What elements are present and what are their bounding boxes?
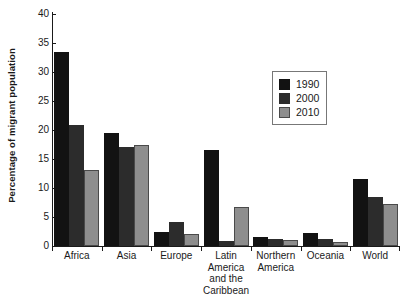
x-axis-label: NorthernAmerica xyxy=(251,250,301,296)
x-axis-label: Africa xyxy=(52,250,102,296)
bar[interactable] xyxy=(268,239,283,246)
y-axis-tick-label: 35 xyxy=(38,38,52,48)
bar-group xyxy=(251,14,301,246)
y-axis-tick-label: 0 xyxy=(43,241,52,251)
bar[interactable] xyxy=(303,233,318,246)
bar-groups xyxy=(52,14,400,246)
y-axis-tick-label: 30 xyxy=(38,67,52,77)
y-axis-tick: 25 xyxy=(38,96,52,106)
bar[interactable] xyxy=(383,204,398,246)
y-axis-tick: 5 xyxy=(43,212,52,222)
bar[interactable] xyxy=(154,232,169,247)
bar[interactable] xyxy=(169,222,184,246)
bar[interactable] xyxy=(119,147,134,246)
legend-label: 2010 xyxy=(296,107,319,118)
bar-group-bars xyxy=(201,14,251,246)
y-axis-tick-label: 40 xyxy=(38,9,52,19)
y-axis-tick: 10 xyxy=(38,183,52,193)
bar-group-bars xyxy=(102,14,152,246)
x-axis-label: LatinAmericaand theCaribbean xyxy=(201,250,251,296)
bar[interactable] xyxy=(234,207,249,246)
bar-group-bars xyxy=(350,14,400,246)
legend-item[interactable]: 2000 xyxy=(279,91,319,105)
y-axis-tick: 0 xyxy=(43,241,52,251)
legend-label: 1990 xyxy=(296,79,319,90)
bar-group-bars xyxy=(52,14,102,246)
bar[interactable] xyxy=(134,145,149,247)
bar[interactable] xyxy=(184,234,199,246)
bar[interactable] xyxy=(204,150,219,246)
chart-legend: 199020002010 xyxy=(272,71,327,125)
y-axis-tick: 15 xyxy=(38,154,52,164)
bar-group xyxy=(151,14,201,246)
bar[interactable] xyxy=(283,240,298,246)
y-axis-tick: 35 xyxy=(38,38,52,48)
bar[interactable] xyxy=(219,241,234,246)
bar[interactable] xyxy=(69,125,84,246)
legend-item[interactable]: 2010 xyxy=(279,105,319,119)
x-axis-labels: AfricaAsiaEuropeLatinAmericaand theCarib… xyxy=(52,250,400,296)
x-axis-label: Oceania xyxy=(301,250,351,296)
bar[interactable] xyxy=(318,239,333,246)
bar[interactable] xyxy=(54,52,69,246)
x-axis-label: World xyxy=(350,250,400,296)
y-axis-title: Percentage of migrant population xyxy=(0,0,22,250)
bar-group xyxy=(301,14,351,246)
y-axis-title-text: Percentage of migrant population xyxy=(6,48,17,203)
legend-swatch xyxy=(279,93,290,104)
legend-swatch xyxy=(279,79,290,90)
bar-group xyxy=(350,14,400,246)
bar[interactable] xyxy=(84,170,99,246)
bar[interactable] xyxy=(368,197,383,246)
legend-label: 2000 xyxy=(296,93,319,104)
y-axis-tick-label: 25 xyxy=(38,96,52,106)
y-axis-tick-label: 20 xyxy=(38,125,52,135)
y-axis-tick: 30 xyxy=(38,67,52,77)
legend-item[interactable]: 1990 xyxy=(279,77,319,91)
bar[interactable] xyxy=(353,179,368,246)
bar-group xyxy=(102,14,152,246)
plot-area: 0510152025303540 xyxy=(52,14,400,246)
migrant-population-bar-chart: Percentage of migrant population 0510152… xyxy=(0,0,410,308)
bar-group-bars xyxy=(151,14,201,246)
bar-group-bars xyxy=(301,14,351,246)
bar-group xyxy=(52,14,102,246)
y-axis-tick-label: 10 xyxy=(38,183,52,193)
x-axis-label: Asia xyxy=(102,250,152,296)
x-axis-label: Europe xyxy=(151,250,201,296)
bar[interactable] xyxy=(104,133,119,246)
bar[interactable] xyxy=(253,237,268,246)
y-axis-tick-label: 15 xyxy=(38,154,52,164)
y-axis-tick-label: 5 xyxy=(43,212,52,222)
bar-group xyxy=(201,14,251,246)
bar[interactable] xyxy=(333,242,348,246)
y-axis-tick: 20 xyxy=(38,125,52,135)
x-axis-line xyxy=(52,246,400,247)
bar-group-bars xyxy=(251,14,301,246)
legend-swatch xyxy=(279,107,290,118)
y-axis-tick: 40 xyxy=(38,9,52,19)
